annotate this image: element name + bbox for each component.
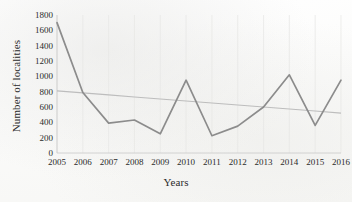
x-tick-label: 2009 [151, 157, 170, 167]
x-axis-title: Years [0, 176, 352, 188]
y-tick-label: 1000 [35, 71, 54, 81]
line-chart-plot: 020040060080010001200140016001800 200520… [0, 0, 352, 202]
y-tick-label: 400 [40, 117, 54, 127]
gridlines-group [57, 15, 341, 153]
axes-group [57, 15, 341, 153]
y-tick-label: 200 [40, 133, 54, 143]
x-tick-label: 2012 [229, 157, 247, 167]
y-tick-label: 1800 [35, 10, 54, 20]
x-tick-label: 2008 [125, 157, 144, 167]
x-tick-label: 2016 [332, 157, 351, 167]
y-tick-label: 600 [40, 102, 54, 112]
y-axis-tick-labels: 020040060080010001200140016001800 [35, 10, 54, 158]
y-tick-label: 1400 [35, 41, 54, 51]
chart-container: 020040060080010001200140016001800 200520… [0, 0, 352, 202]
x-tick-label: 2010 [177, 157, 196, 167]
x-tick-label: 2007 [100, 157, 119, 167]
x-tick-label: 2005 [48, 157, 67, 167]
y-axis-title: Number of localities [10, 26, 22, 146]
x-tick-label: 2014 [280, 157, 299, 167]
y-tick-label: 1600 [35, 25, 54, 35]
x-tick-label: 2015 [306, 157, 325, 167]
x-tick-label: 2006 [74, 157, 93, 167]
x-tick-label: 2011 [203, 157, 221, 167]
y-tick-label: 1200 [35, 56, 54, 66]
x-axis-tick-labels: 2005200620072008200920102011201220132014… [48, 157, 351, 167]
data-series-line [57, 23, 341, 136]
x-tick-label: 2013 [255, 157, 274, 167]
y-tick-label: 800 [40, 87, 54, 97]
